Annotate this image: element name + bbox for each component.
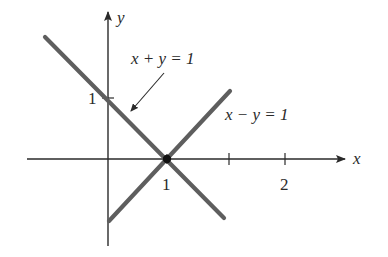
line-label-x-plus-y: x + y = 1 xyxy=(130,49,195,68)
linear-system-graph: y x 1 2 1 x + y = 1 x − y = 1 xyxy=(0,0,388,257)
y-axis-label: y xyxy=(115,8,125,27)
x-axis-label: x xyxy=(352,149,361,168)
x-tick-label-2: 2 xyxy=(280,175,289,194)
y-tick-label-1: 1 xyxy=(88,89,97,108)
x-tick-label-1: 1 xyxy=(162,175,171,194)
line-label-x-minus-y: x − y = 1 xyxy=(224,105,289,124)
intersection-point xyxy=(163,155,171,163)
label-pointer-arrow-icon xyxy=(131,73,164,111)
